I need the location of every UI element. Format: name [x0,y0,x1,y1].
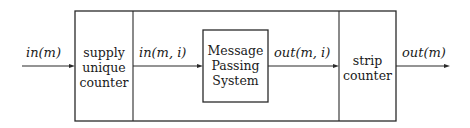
supply-block-line-1: supply [83,45,125,60]
block-diagram: in(m) in(m, i) out(m, i) out(m) supply u… [0,0,470,128]
edge-label-in-m-i: in(m, i) [139,45,186,60]
edge-label-out-m-i: out(m, i) [274,45,330,60]
mps-to-strip-arrow [268,64,339,68]
input-arrow [22,64,75,68]
supply-block-line-2: unique [82,60,126,75]
mps-block-line-3: System [212,73,258,88]
output-arrow [396,64,450,68]
edge-label-out-m: out(m) [402,45,446,60]
edge-label-in-m: in(m) [26,45,61,60]
strip-block-line-1: strip [353,53,382,68]
mps-block-line-1: Message [208,43,264,58]
mps-block-line-2: Passing [211,58,259,73]
supply-block-line-3: counter [79,75,128,90]
strip-block-line-2: counter [343,68,392,83]
supply-to-mps-arrow [133,64,203,68]
